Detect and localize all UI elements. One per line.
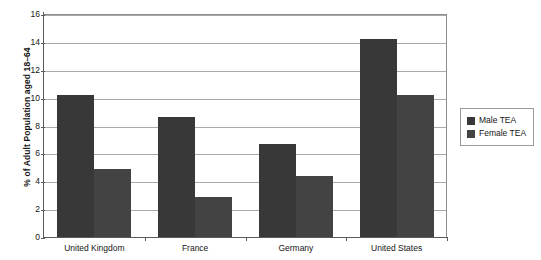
y-tick-mark: [41, 43, 45, 44]
x-tick-mark: [246, 237, 247, 241]
legend-item[interactable]: Male TEA: [467, 114, 528, 127]
x-tick-mark: [145, 237, 146, 241]
x-axis-category-label: United States: [371, 243, 422, 253]
y-tick-label: 14: [18, 38, 40, 47]
y-tick-label: 10: [18, 93, 40, 102]
chart-legend: Male TEAFemale TEA: [460, 108, 534, 146]
y-tick-label: 4: [18, 177, 40, 186]
y-tick-mark: [41, 238, 45, 239]
y-tick-mark: [41, 210, 45, 211]
bar: [360, 39, 397, 237]
bar: [57, 95, 94, 237]
y-tick-label: 8: [18, 121, 40, 130]
bar-chart: % of Adult Population aged 18–64 0246810…: [0, 0, 541, 260]
x-tick-mark: [346, 237, 347, 241]
bar: [296, 176, 333, 237]
y-tick-label: 12: [18, 66, 40, 75]
legend-swatch-icon: [467, 117, 475, 125]
y-tick-mark: [41, 15, 45, 16]
y-tick-label: 6: [18, 149, 40, 158]
y-tick-mark: [41, 127, 45, 128]
y-tick-mark: [41, 182, 45, 183]
legend-swatch-icon: [467, 130, 475, 138]
bar: [158, 117, 195, 237]
y-tick-mark: [41, 71, 45, 72]
x-axis-category-label: France: [182, 243, 208, 253]
legend-item[interactable]: Female TEA: [467, 127, 528, 140]
y-tick-mark: [41, 99, 45, 100]
y-tick-label: 2: [18, 205, 40, 214]
x-axis-category-label: Germany: [278, 243, 313, 253]
y-axis-tick-labels: 0246810121416: [18, 14, 40, 237]
x-tick-mark: [447, 237, 448, 241]
bar: [259, 144, 296, 237]
legend-label: Male TEA: [479, 116, 516, 125]
y-tick-label: 16: [18, 10, 40, 19]
gridline: [44, 15, 446, 16]
bar: [94, 169, 131, 237]
bar: [195, 197, 232, 237]
bar: [397, 95, 434, 237]
y-tick-mark: [41, 154, 45, 155]
plot-area: [44, 14, 447, 237]
x-axis-category-label: United Kingdom: [64, 243, 124, 253]
y-tick-label: 0: [18, 233, 40, 242]
legend-label: Female TEA: [479, 129, 526, 138]
